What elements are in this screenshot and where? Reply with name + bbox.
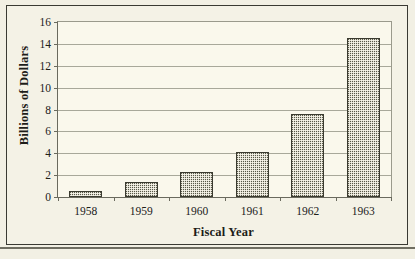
y-tick-mark [54, 66, 58, 67]
y-tick-mark [54, 175, 58, 176]
y-tick-label: 14 [40, 38, 52, 50]
x-tick-label-1963: 1963 [352, 205, 375, 217]
y-tick-mark [54, 110, 58, 111]
x-tick-mark [58, 197, 59, 201]
gridline [58, 175, 391, 176]
gridline [58, 110, 391, 111]
x-tick-mark [391, 197, 392, 201]
gridline [58, 66, 391, 67]
y-tick-label: 10 [40, 82, 52, 94]
plot-area: 0246810121416 195819591960196119621963 [57, 21, 392, 198]
bar-1958 [69, 191, 102, 196]
x-tick-label-1960: 1960 [185, 205, 208, 217]
gridline [58, 88, 391, 89]
x-tick-label-1959: 1959 [130, 205, 153, 217]
y-tick-mark [54, 22, 58, 23]
bar-1963 [347, 38, 380, 197]
gridline [58, 153, 391, 154]
y-tick-mark [54, 44, 58, 45]
y-axis-title: Billions of Dollars [17, 26, 32, 166]
y-tick-mark [54, 88, 58, 89]
y-tick-label: 12 [40, 60, 52, 72]
x-tick-label-1958: 1958 [74, 205, 97, 217]
bar-1959 [125, 182, 158, 197]
gridline [58, 131, 391, 132]
y-tick-label: 6 [45, 125, 51, 137]
figure: Billions of Dollars 0246810121416 195819… [0, 0, 415, 259]
bar-1961 [236, 152, 269, 197]
y-tick-mark [54, 153, 58, 154]
x-tick-label-1961: 1961 [241, 205, 264, 217]
x-tick-mark [280, 197, 281, 201]
y-tick-mark [54, 131, 58, 132]
x-tick-mark [336, 197, 337, 201]
x-tick-label-1962: 1962 [296, 205, 319, 217]
x-axis-title: Fiscal Year [57, 225, 390, 240]
y-tick-label: 0 [45, 191, 51, 203]
x-tick-mark [114, 197, 115, 201]
y-tick-label: 8 [45, 104, 51, 116]
x-tick-mark [225, 197, 226, 201]
page-rule [0, 247, 415, 249]
y-tick-label: 2 [45, 169, 51, 181]
bar-1962 [291, 114, 324, 196]
gridline [58, 44, 391, 45]
y-tick-label: 4 [45, 147, 51, 159]
x-tick-mark [169, 197, 170, 201]
bar-1960 [180, 172, 213, 196]
y-tick-label: 16 [40, 16, 52, 28]
